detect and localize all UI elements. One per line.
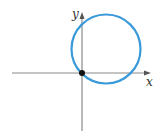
- y-axis-arrow-icon: [80, 12, 85, 19]
- y-axis-label: y: [71, 7, 79, 21]
- x-axis-label: x: [146, 75, 153, 89]
- origin-point: [79, 70, 85, 76]
- diagram-canvas: y x: [0, 0, 160, 140]
